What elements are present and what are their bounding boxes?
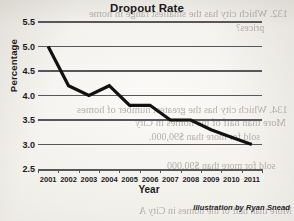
x-axis-tick — [221, 169, 222, 173]
x-axis-tick-label: 2004 — [101, 175, 118, 184]
y-axis-tick-label: 3.5 — [22, 115, 35, 125]
x-axis-tick — [140, 169, 141, 173]
chart-title: Dropout Rate — [0, 2, 294, 14]
y-axis-tick-label: 4.5 — [22, 66, 35, 76]
x-axis-tick-label: 2011 — [244, 175, 260, 184]
x-axis-tick-label: 2010 — [223, 175, 240, 184]
x-axis-tick — [38, 169, 39, 173]
scanned-page: 132. Which city has the smallest range i… — [0, 0, 294, 221]
x-axis-tick-label: 2008 — [182, 175, 199, 184]
y-axis-tick-label: 2.5 — [22, 164, 35, 174]
x-axis-tick — [99, 169, 100, 173]
x-axis-title: Year — [36, 184, 262, 195]
attribution: Illustration by Ryan Snead — [193, 203, 290, 212]
x-axis-tick — [58, 169, 59, 173]
x-axis-tick-label: 2002 — [60, 175, 77, 184]
x-axis-tick — [79, 169, 80, 173]
plot-area: 5.55.04.54.03.53.02.5 200120022003200420… — [38, 22, 262, 169]
x-axis-tick-label: 2001 — [40, 175, 57, 184]
dropout-rate-series — [38, 22, 262, 169]
x-axis-tick — [181, 169, 182, 173]
y-axis-tick-label: 3.0 — [22, 140, 35, 150]
y-axis-tick-label: 5.0 — [22, 42, 35, 52]
x-axis-tick — [242, 169, 243, 173]
x-axis-tick-label: 2007 — [162, 175, 179, 184]
y-axis-tick-label: 5.5 — [22, 17, 35, 27]
y-axis-title: Percentage — [8, 26, 19, 106]
x-axis-tick — [160, 169, 161, 173]
bleed-through-number: 134. — [270, 104, 288, 115]
x-axis-tick-label: 2005 — [121, 175, 138, 184]
data-line — [48, 47, 252, 145]
x-axis-tick-label: 2006 — [142, 175, 159, 184]
y-axis-tick-label: 4.0 — [22, 91, 35, 101]
x-axis-tick — [119, 169, 120, 173]
x-axis-tick-label: 2003 — [81, 175, 98, 184]
x-axis-tick — [262, 169, 263, 173]
x-axis-line — [38, 169, 262, 171]
x-axis-tick-label: 2009 — [203, 175, 220, 184]
x-axis-tick — [201, 169, 202, 173]
